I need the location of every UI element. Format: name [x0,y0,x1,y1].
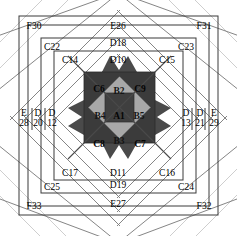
quilt-block-diagram: F30 E26 F31 C22 D18 C23 C14 D10 C15 C6 B… [0,0,237,236]
star-point-left [68,100,84,135]
star-point-top [102,56,137,72]
diagram-canvas [0,0,237,236]
star-point-bottom [102,143,137,159]
